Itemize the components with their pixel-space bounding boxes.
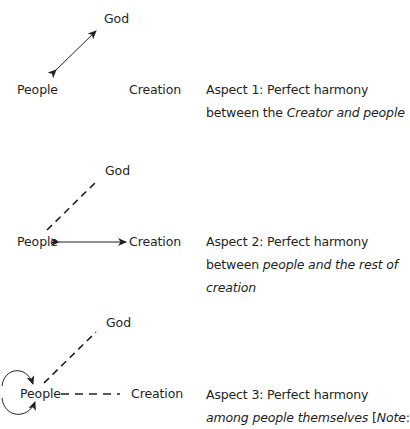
god-people-dashed-line xyxy=(47,181,97,230)
node-god-3: God xyxy=(106,315,131,330)
node-people-3: People xyxy=(20,386,61,401)
node-god-2: God xyxy=(105,163,130,178)
aspect-3-emphasis: among people themselves xyxy=(206,410,368,425)
god-people-dashed-line-3 xyxy=(44,332,96,383)
node-creation-2: Creation xyxy=(129,234,181,249)
harmony-diagram: God People Creation Aspect 1: Perfect ha… xyxy=(0,0,410,429)
node-people-2: People xyxy=(17,234,58,249)
node-people-1: People xyxy=(17,82,58,97)
aspect-1-description: Aspect 1: Perfect harmony between the Cr… xyxy=(206,78,410,124)
aspect-2-description: Aspect 2: Perfect harmony between people… xyxy=(206,230,410,299)
node-god-1: God xyxy=(104,11,129,26)
aspect-1-emphasis: Creator and people xyxy=(287,105,405,120)
self-loop-upper-arc xyxy=(2,371,33,386)
aspect-3-description: Aspect 3: Perfect harmony among people t… xyxy=(206,383,410,429)
node-creation-1: Creation xyxy=(129,82,181,97)
diagram-connectors xyxy=(0,0,410,429)
aspect-3-text: Aspect 3: Perfect harmony xyxy=(206,387,368,402)
aspect-3-bracket: [ xyxy=(368,410,377,425)
node-creation-3: Creation xyxy=(131,386,183,401)
god-people-double-arrow xyxy=(56,31,96,70)
aspect-3-note-label: Note xyxy=(377,410,406,425)
